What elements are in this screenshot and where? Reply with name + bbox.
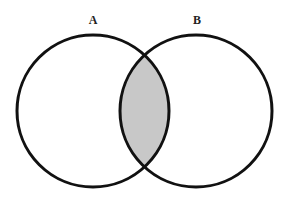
set-b-label: B [193,13,201,27]
set-a-label: A [89,13,98,27]
venn-diagram: A B [0,0,285,197]
